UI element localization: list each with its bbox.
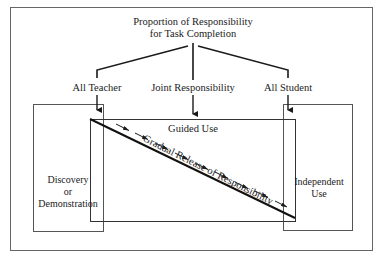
- down-arrows: [97, 95, 288, 114]
- phase-label-independent-use: Independent Use: [285, 176, 353, 200]
- phase-label-discovery: Discovery or Demonstration: [32, 174, 104, 210]
- title-tree: [97, 43, 288, 80]
- gradual-release-diagram: Proportion of Responsibility for Task Co…: [0, 0, 381, 258]
- phase-label-guided-use: Guided Use: [158, 123, 228, 135]
- title-line-2: for Task Completion: [113, 28, 273, 40]
- phase-left-line-3: Demonstration: [32, 198, 104, 210]
- diagram-title: Proportion of Responsibility for Task Co…: [113, 16, 273, 40]
- level-label-all-teacher: All Teacher: [57, 82, 137, 94]
- phase-left-line-1: Discovery: [32, 174, 104, 186]
- phase-right-line-1: Independent: [285, 176, 353, 188]
- title-line-1: Proportion of Responsibility: [113, 16, 273, 28]
- phase-left-line-2: or: [32, 186, 104, 198]
- level-label-joint-responsibility: Joint Responsibility: [138, 82, 248, 94]
- level-label-all-student: All Student: [248, 82, 328, 94]
- phase-right-line-2: Use: [285, 188, 353, 200]
